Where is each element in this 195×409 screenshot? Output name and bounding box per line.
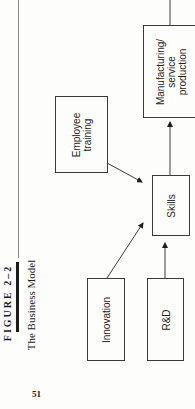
node-employee-training: Employee training [55,96,108,173]
node-rnd: R&D [147,278,184,361]
node-manufacturing-label: Manufacturing/ service production [155,38,188,104]
arrow-employee-training-to-skills [107,163,142,182]
node-manufacturing: Manufacturing/ service production [143,25,195,118]
node-employee-training-label: Employee training [71,112,93,156]
arrow-innovation-to-skills [107,223,143,278]
node-skills-label: Skills [166,194,177,217]
node-skills: Skills [152,175,190,236]
node-innovation-label: Innovation [101,296,112,342]
node-rnd-label: R&D [160,309,171,330]
node-innovation: Innovation [87,278,125,361]
